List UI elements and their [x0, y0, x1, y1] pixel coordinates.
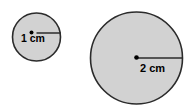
large-circle-radius-label: 2 cm — [140, 62, 165, 74]
circles-diagram: 1 cm 2 cm — [0, 0, 194, 112]
geometry-figure: 1 cm 2 cm — [0, 0, 194, 112]
small-circle-radius-label: 1 cm — [21, 32, 45, 44]
large-circle-group: 2 cm — [91, 12, 184, 104]
small-circle-group: 1 cm — [13, 13, 61, 61]
large-circle-center-dot — [134, 55, 139, 60]
